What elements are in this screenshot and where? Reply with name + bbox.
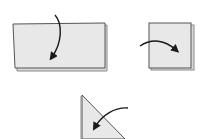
origami-diagram [0, 0, 210, 139]
